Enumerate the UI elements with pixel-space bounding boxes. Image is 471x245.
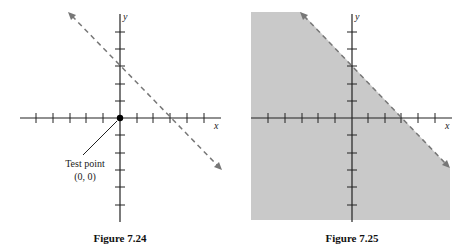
figure-caption: Figure 7.25 [292, 232, 412, 244]
x-axis-label: x [444, 120, 450, 131]
shaded-region [251, 12, 450, 220]
figure-caption: Figure 7.24 [60, 232, 180, 244]
figure-7-25-plot: y x [0, 0, 471, 245]
y-axis-label: y [354, 11, 360, 22]
